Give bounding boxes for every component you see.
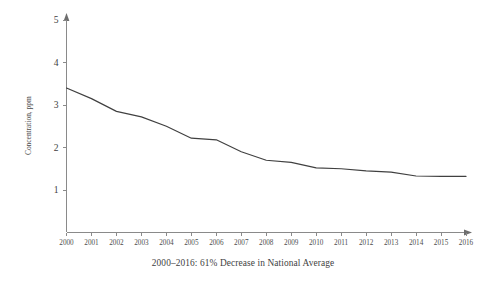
y-tick-marks bbox=[63, 20, 67, 190]
x-axis-arrow-icon bbox=[464, 230, 472, 236]
x-tick-marks bbox=[67, 233, 467, 237]
y-axis: 12345 Concentration, ppm bbox=[24, 13, 69, 232]
y-tick-label: 5 bbox=[54, 14, 59, 25]
x-tick-label: 2003 bbox=[134, 239, 149, 247]
x-tick-label: 2000 bbox=[59, 239, 74, 247]
x-tick-label: 2008 bbox=[259, 239, 274, 247]
x-tick-label: 2010 bbox=[309, 239, 324, 247]
x-tick-label: 2006 bbox=[209, 239, 224, 247]
x-tick-label: 2005 bbox=[184, 239, 199, 247]
y-tick-label: 1 bbox=[54, 184, 59, 195]
x-tick-label: 2001 bbox=[84, 239, 99, 247]
y-tick-label: 3 bbox=[54, 99, 59, 110]
y-tick-label: 4 bbox=[54, 57, 59, 68]
x-tick-label: 2004 bbox=[159, 239, 174, 247]
y-tick-label-group: 12345 bbox=[54, 14, 59, 195]
x-tick-label: 2014 bbox=[409, 239, 424, 247]
x-tick-label: 2007 bbox=[234, 239, 249, 247]
x-axis: 2000200120022003200420052006200720082009… bbox=[59, 230, 473, 247]
chart-figure: 12345 Concentration, ppm 200020012002200… bbox=[0, 0, 486, 283]
x-tick-label: 2015 bbox=[434, 239, 449, 247]
x-tick-label: 2016 bbox=[459, 239, 474, 247]
x-tick-label: 2011 bbox=[334, 239, 349, 247]
y-axis-title: Concentration, ppm bbox=[24, 96, 33, 155]
x-tick-label: 2009 bbox=[284, 239, 299, 247]
x-tick-label: 2013 bbox=[384, 239, 399, 247]
line-chart-plot: 12345 Concentration, ppm 200020012002200… bbox=[0, 0, 486, 283]
x-tick-label: 2012 bbox=[359, 239, 374, 247]
chart-caption: 2000–2016: 61% Decrease in National Aver… bbox=[0, 258, 486, 268]
x-tick-label: 2002 bbox=[109, 239, 124, 247]
data-series-line bbox=[67, 88, 467, 176]
x-tick-label-group: 2000200120022003200420052006200720082009… bbox=[59, 239, 473, 247]
y-tick-label: 2 bbox=[54, 142, 59, 153]
